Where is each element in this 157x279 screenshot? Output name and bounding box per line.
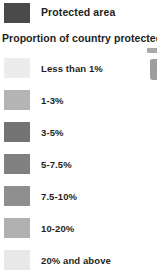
legend-header-row: Protected area (0, 3, 157, 24)
legend-swatch (4, 186, 30, 206)
legend-swatch (4, 90, 30, 110)
legend-item: 1-3% (0, 90, 157, 122)
map-fragment-upper (147, 48, 157, 53)
protected-area-label: Protected area (41, 6, 115, 18)
legend-swatch (4, 218, 30, 238)
legend-section-title: Proportion of country protected (2, 32, 157, 44)
legend-item: 20% and above (0, 250, 157, 279)
map-fragment-lower (150, 59, 157, 80)
map-legend: Protected area Proportion of country pro… (0, 0, 157, 279)
legend-item-label: 3-5% (41, 127, 64, 138)
legend-item: Less than 1% (0, 58, 157, 90)
legend-item: 7.5-10% (0, 186, 157, 218)
legend-swatch (4, 58, 30, 78)
legend-scale-list: Less than 1% 1-3% 3-5% 5-7.5% 7.5-10% 10… (0, 58, 157, 279)
legend-item-label: 1-3% (41, 95, 64, 106)
legend-swatch (4, 122, 30, 142)
legend-item-label: 10-20% (41, 223, 74, 234)
legend-item-label: 20% and above (41, 255, 111, 266)
legend-item-label: 5-7.5% (41, 159, 72, 170)
protected-area-swatch (4, 3, 30, 23)
legend-swatch (4, 154, 30, 174)
legend-item-label: 7.5-10% (41, 191, 77, 202)
legend-item: 10-20% (0, 218, 157, 250)
legend-item-label: Less than 1% (41, 63, 103, 74)
legend-item: 5-7.5% (0, 154, 157, 186)
legend-item: 3-5% (0, 122, 157, 154)
legend-swatch (4, 250, 30, 270)
